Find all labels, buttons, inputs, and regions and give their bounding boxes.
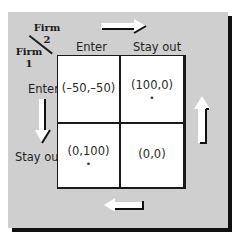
arrow-down-icon	[34, 98, 52, 144]
row-header-enter: Enter	[28, 82, 59, 96]
column-header-enter: Enter	[76, 40, 107, 54]
row-header-stay-out: Stay out	[15, 150, 63, 164]
payoff-value: (0,100)	[68, 144, 110, 158]
payoff-grid: (–50,–50) (100,0) • (0,100) • (0,0)	[57, 55, 186, 189]
payoff-value: (–50,–50)	[62, 81, 115, 95]
column-player-name: Firm	[32, 22, 62, 34]
payoff-value: (0,0)	[138, 147, 165, 161]
row-player-number: 1	[14, 58, 44, 70]
column-header-stay-out: Stay out	[133, 40, 181, 54]
cell-stayout-enter: (0,100) •	[58, 124, 119, 187]
row-player-label: Firm 1	[14, 46, 44, 70]
row-player-name: Firm	[14, 46, 44, 58]
cell-stayout-stayout: (0,0)	[121, 124, 183, 187]
cell-enter-enter: (–50,–50)	[58, 56, 119, 122]
nash-marker: •	[86, 161, 91, 167]
arrow-left-icon	[103, 197, 145, 213]
cell-enter-stayout: (100,0) •	[121, 56, 183, 122]
arrow-right-icon	[100, 18, 148, 34]
arrow-up-icon	[192, 95, 212, 145]
nash-marker: •	[149, 95, 154, 101]
payoff-value: (100,0)	[131, 78, 173, 92]
